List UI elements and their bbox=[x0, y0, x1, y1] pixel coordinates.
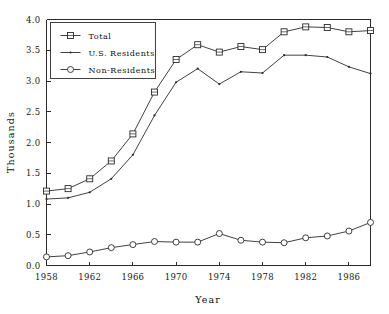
x-tick-label: 1966 bbox=[121, 272, 144, 282]
x-tick-label: 1974 bbox=[208, 272, 231, 282]
series-path bbox=[47, 222, 371, 256]
chart-legend: TotalU.S. ResidentsNon-Residents bbox=[51, 23, 156, 79]
data-point bbox=[130, 242, 136, 248]
y-tick-label: 1.0 bbox=[26, 199, 40, 209]
x-tick-label: 1982 bbox=[294, 272, 317, 282]
y-tick-label: 2.0 bbox=[26, 138, 40, 148]
legend-label: U.S. Residents bbox=[89, 49, 155, 58]
x-tick-label: 1986 bbox=[337, 272, 360, 282]
y-tick-label: 3.5 bbox=[26, 45, 40, 55]
legend-label: Non-Residents bbox=[89, 66, 156, 75]
data-point bbox=[368, 219, 374, 225]
data-point bbox=[89, 191, 91, 193]
data-point bbox=[261, 72, 263, 74]
series-non-residents bbox=[44, 219, 374, 259]
data-point bbox=[238, 237, 244, 243]
y-tick-label: 2.5 bbox=[26, 107, 40, 117]
data-point bbox=[195, 239, 201, 245]
data-point bbox=[108, 245, 114, 251]
data-point bbox=[65, 253, 71, 259]
data-point bbox=[153, 114, 155, 116]
y-tick-label: 1.5 bbox=[26, 168, 40, 178]
y-tick-label: 3.0 bbox=[26, 76, 40, 86]
data-point bbox=[324, 233, 330, 239]
x-tick-label: 1978 bbox=[251, 272, 274, 282]
data-point bbox=[303, 235, 309, 241]
data-point bbox=[152, 239, 158, 245]
data-point bbox=[197, 68, 199, 70]
chart-canvas: 0.00.51.01.52.02.53.03.54.0 195819621966… bbox=[0, 0, 389, 314]
data-point bbox=[132, 154, 134, 156]
y-tick-label: 0.0 bbox=[26, 261, 40, 271]
x-axis-title: Year bbox=[194, 294, 221, 305]
data-point bbox=[281, 240, 287, 246]
data-point bbox=[67, 197, 69, 199]
x-tick-label: 1970 bbox=[165, 272, 188, 282]
data-point bbox=[326, 56, 328, 58]
data-point bbox=[175, 81, 177, 83]
data-point bbox=[218, 83, 220, 85]
y-tick-label: 4.0 bbox=[26, 15, 40, 25]
data-point bbox=[216, 231, 222, 237]
legend-marker bbox=[69, 51, 71, 53]
y-tick-label: 0.5 bbox=[26, 230, 40, 240]
data-point bbox=[44, 254, 50, 260]
x-axis-ticks: 19581962196619701974197819821986 bbox=[35, 262, 360, 282]
data-point bbox=[173, 239, 179, 245]
y-axis-title: Thousands bbox=[5, 111, 16, 173]
data-point bbox=[110, 178, 112, 180]
legend-marker bbox=[68, 67, 74, 73]
data-point bbox=[45, 198, 47, 200]
data-point bbox=[305, 54, 307, 56]
data-point bbox=[260, 239, 266, 245]
x-tick-label: 1958 bbox=[35, 272, 58, 282]
x-tick-label: 1962 bbox=[78, 272, 101, 282]
legend-label: Total bbox=[89, 32, 112, 41]
data-point bbox=[346, 228, 352, 234]
data-point bbox=[240, 71, 242, 73]
line-chart: 0.00.51.01.52.02.53.03.54.0 195819621966… bbox=[0, 0, 389, 314]
data-point bbox=[87, 249, 93, 255]
data-point bbox=[283, 54, 285, 56]
data-point bbox=[348, 66, 350, 68]
data-point bbox=[369, 73, 371, 75]
